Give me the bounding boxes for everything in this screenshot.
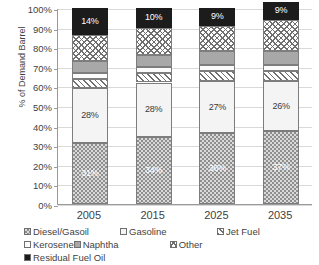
bar-segment[interactable] (72, 73, 108, 79)
legend-swatch-icon (24, 241, 31, 248)
bar-segment-value-label: 28% (145, 105, 162, 114)
stacked-bar[interactable]: 37%26%9% (263, 9, 299, 204)
y-axis-tick (54, 206, 58, 207)
y-axis-tick-label: 80% (33, 44, 52, 54)
x-axis-tick-label: 2015 (121, 209, 185, 221)
plot-area: 100%90%80%70%60%50%40%30%20%10%0% 31%28%… (57, 9, 312, 205)
y-axis-tick-label: 10% (33, 182, 52, 192)
stacked-bar[interactable]: 31%28%14% (72, 9, 108, 204)
x-axis-tick-label: 2005 (57, 209, 121, 221)
bar-slot: 36%27%9% (186, 9, 250, 204)
y-axis-tick-label: 0% (38, 201, 52, 211)
legend-item[interactable]: Residual Fuel Oil (24, 252, 105, 263)
legend-swatch-icon (24, 254, 31, 261)
bar-segment[interactable] (136, 55, 172, 67)
legend-label: Residual Fuel Oil (33, 252, 105, 263)
bar-segment-value-label: 26% (272, 102, 289, 111)
bar-segment[interactable]: 36% (199, 133, 235, 204)
bar-segment[interactable]: 26% (263, 81, 299, 132)
y-axis-tick-label: 100% (28, 5, 52, 15)
bar-segment-value-label: 34% (145, 166, 162, 175)
legend-label: Other (179, 239, 203, 250)
bar-segment-value-label: 36% (209, 164, 226, 173)
bar-segment[interactable]: 10% (136, 8, 172, 28)
legend: Diesel/GasoilGasolineJet FuelKeroseneNap… (24, 226, 314, 265)
bar-slot: 31%28%14% (58, 9, 122, 204)
bar-segment[interactable]: 34% (136, 137, 172, 204)
bar-segment-value-label: 9% (211, 12, 224, 21)
legend-swatch-icon (24, 228, 31, 235)
bar-slot: 37%26%9% (249, 9, 313, 204)
y-axis-tick-label: 70% (33, 64, 52, 74)
legend-item[interactable]: Other (170, 239, 267, 250)
bar-segment[interactable] (72, 79, 108, 89)
y-axis-tick-label: 50% (33, 103, 52, 113)
legend-swatch-icon (217, 228, 224, 235)
y-axis-tick-label: 60% (33, 84, 52, 94)
legend-item[interactable]: Diesel/Gasoil (24, 226, 120, 237)
bar-segment-value-label: 14% (81, 17, 98, 26)
y-axis-tick-label: 20% (33, 162, 52, 172)
bar-segment[interactable] (199, 65, 235, 71)
bar-segment-value-label: 28% (81, 111, 98, 120)
bar-segment[interactable]: 27% (199, 81, 235, 134)
bar-segment[interactable]: 28% (136, 83, 172, 138)
legend-label: Naphtha (83, 239, 119, 250)
legend-swatch-icon (120, 228, 127, 235)
bar-segment-value-label: 9% (275, 6, 288, 15)
gridline: 0% (58, 205, 312, 206)
bar-group: 31%28%14%34%28%10%36%27%9%37%26%9% (58, 9, 312, 204)
bar-segment[interactable] (72, 61, 108, 73)
legend-item[interactable]: Jet Fuel (217, 226, 314, 237)
bar-segment[interactable]: 9% (263, 2, 299, 20)
legend-item[interactable]: Gasoline (120, 226, 217, 237)
y-axis-tick-label: 90% (33, 25, 52, 35)
bar-segment[interactable] (199, 26, 235, 51)
x-axis-tick-label: 2025 (185, 209, 249, 221)
legend-swatch-icon (170, 241, 177, 248)
bar-segment[interactable] (199, 71, 235, 81)
bar-segment-value-label: 37% (272, 163, 289, 172)
bar-segment-value-label: 27% (209, 103, 226, 112)
bar-segment[interactable] (263, 20, 299, 51)
bar-segment[interactable]: 14% (72, 8, 108, 35)
bar-segment[interactable] (199, 51, 235, 65)
y-axis-tick-label: 30% (33, 142, 52, 152)
bar-segment[interactable] (263, 71, 299, 81)
legend-swatch-icon (74, 241, 81, 248)
bar-segment[interactable]: 31% (72, 143, 108, 204)
bar-segment[interactable] (263, 65, 299, 71)
bar-segment[interactable]: 9% (199, 8, 235, 26)
legend-item[interactable]: Naphtha (74, 239, 170, 250)
legend-label: Diesel/Gasoil (33, 226, 89, 237)
bar-segment[interactable] (136, 28, 172, 55)
stacked-bar[interactable]: 34%28%10% (136, 9, 172, 204)
legend-item[interactable]: Kerosene (24, 239, 74, 250)
bar-segment[interactable] (136, 73, 172, 83)
stacked-bar[interactable]: 36%27%9% (199, 9, 235, 204)
y-axis-title: % of Demand Barrel (17, 0, 27, 137)
y-axis-tick-label: 40% (33, 123, 52, 133)
bar-segment[interactable] (263, 51, 299, 65)
legend-label: Gasoline (129, 226, 167, 237)
bar-segment[interactable]: 37% (263, 131, 299, 204)
bar-segment[interactable] (136, 67, 172, 73)
legend-label: Jet Fuel (226, 226, 260, 237)
x-axis-tick-label: 2035 (248, 209, 312, 221)
bar-segment[interactable] (72, 35, 108, 60)
bar-segment[interactable]: 28% (72, 88, 108, 143)
legend-label: Kerosene (33, 239, 74, 250)
bar-segment-value-label: 10% (145, 13, 162, 22)
bar-segment-value-label: 31% (81, 169, 98, 178)
bar-slot: 34%28%10% (122, 9, 186, 204)
